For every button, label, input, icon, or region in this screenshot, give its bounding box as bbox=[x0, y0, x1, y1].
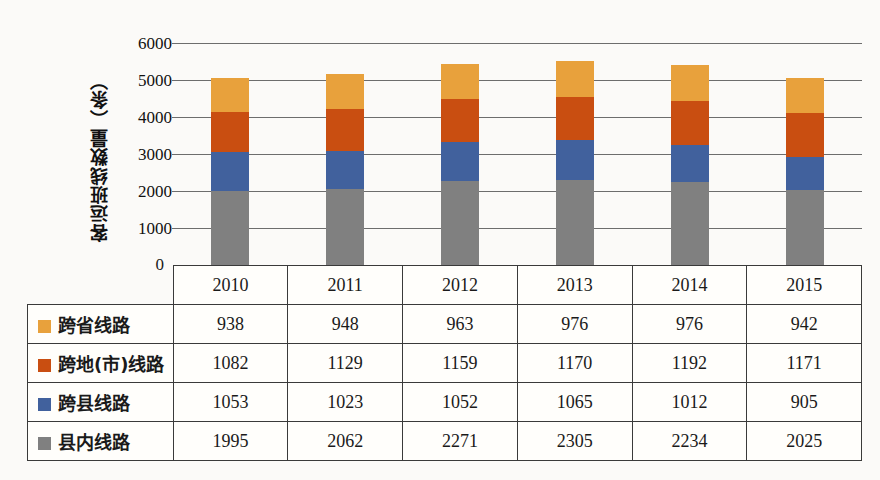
legend-label: 跨省线路 bbox=[58, 315, 130, 336]
legend-item-跨地(市)线路[interactable]: 跨地(市)线路 bbox=[28, 344, 174, 383]
bar-segment bbox=[556, 180, 594, 265]
legend-label: 跨县线路 bbox=[58, 393, 130, 414]
table-cell: 942 bbox=[747, 305, 862, 344]
chart-figure: 客运班线数量（条） 600050004000300020001000 0 201… bbox=[0, 0, 880, 480]
bar-2014 bbox=[671, 65, 709, 265]
legend-item-跨省线路[interactable]: 跨省线路 bbox=[28, 305, 174, 344]
bar-segment bbox=[326, 151, 364, 189]
table-header-row: 201020112012201320142015 bbox=[28, 266, 862, 305]
bar-2011 bbox=[326, 74, 364, 265]
bar-segment bbox=[671, 65, 709, 101]
bar-segment bbox=[786, 157, 824, 190]
table-cell: 905 bbox=[747, 383, 862, 422]
bar-segment bbox=[441, 64, 479, 100]
bar-series-group bbox=[172, 0, 862, 265]
plot-area: 客运班线数量（条） 600050004000300020001000 bbox=[0, 0, 880, 268]
bar-segment bbox=[786, 113, 824, 156]
table-cell: 1129 bbox=[288, 344, 403, 383]
table-cell: 2025 bbox=[747, 422, 862, 461]
table-cell: 948 bbox=[288, 305, 403, 344]
table-col-header-2010: 2010 bbox=[173, 266, 288, 305]
legend-swatch-icon bbox=[38, 437, 51, 450]
bar-2013 bbox=[556, 61, 594, 265]
table-cell: 1012 bbox=[632, 383, 747, 422]
bar-2010 bbox=[211, 78, 249, 266]
table-cell: 1052 bbox=[403, 383, 518, 422]
table-cell: 1995 bbox=[173, 422, 288, 461]
table-cell: 1192 bbox=[632, 344, 747, 383]
bar-segment bbox=[671, 145, 709, 182]
y-tick-label-4000: 4000 bbox=[112, 109, 172, 126]
bar-segment bbox=[211, 112, 249, 152]
bar-segment bbox=[786, 190, 824, 265]
bar-2015 bbox=[786, 78, 824, 265]
table-cell: 2305 bbox=[517, 422, 632, 461]
bar-2012 bbox=[441, 64, 479, 265]
y-tick-label-6000: 6000 bbox=[112, 35, 172, 52]
table-cell: 1159 bbox=[403, 344, 518, 383]
table-cell: 1171 bbox=[747, 344, 862, 383]
bar-segment bbox=[326, 109, 364, 151]
table-col-header-2013: 2013 bbox=[517, 266, 632, 305]
bar-segment bbox=[441, 181, 479, 265]
bar-segment bbox=[326, 74, 364, 109]
bar-segment bbox=[671, 182, 709, 265]
table-cell: 1170 bbox=[517, 344, 632, 383]
table-cell: 1082 bbox=[173, 344, 288, 383]
table-cell: 1053 bbox=[173, 383, 288, 422]
y-axis-tick-labels: 600050004000300020001000 bbox=[112, 0, 172, 268]
table-col-header-2015: 2015 bbox=[747, 266, 862, 305]
table-cell: 1065 bbox=[517, 383, 632, 422]
table-row: 县内线路199520622271230522342025 bbox=[28, 422, 862, 461]
table-row: 跨县线路10531023105210651012905 bbox=[28, 383, 862, 422]
bar-segment bbox=[556, 140, 594, 179]
legend-swatch-icon bbox=[38, 398, 51, 411]
table-cell: 2271 bbox=[403, 422, 518, 461]
table-corner-cell bbox=[28, 266, 174, 305]
legend-label: 县内线路 bbox=[58, 432, 130, 453]
legend-item-县内线路[interactable]: 县内线路 bbox=[28, 422, 174, 461]
bar-segment bbox=[556, 61, 594, 97]
y-tick-label-1000: 1000 bbox=[112, 220, 172, 237]
y-tick-label-5000: 5000 bbox=[112, 72, 172, 89]
bar-segment bbox=[211, 191, 249, 265]
legend-item-跨县线路[interactable]: 跨县线路 bbox=[28, 383, 174, 422]
legend-swatch-icon bbox=[38, 359, 51, 372]
table-cell: 2062 bbox=[288, 422, 403, 461]
table-cell: 963 bbox=[403, 305, 518, 344]
table-cell: 976 bbox=[517, 305, 632, 344]
bar-segment bbox=[786, 78, 824, 113]
bar-segment bbox=[211, 152, 249, 191]
bar-segment bbox=[326, 189, 364, 265]
table-col-header-2012: 2012 bbox=[403, 266, 518, 305]
table-cell: 2234 bbox=[632, 422, 747, 461]
table-col-header-2014: 2014 bbox=[632, 266, 747, 305]
table-cell: 938 bbox=[173, 305, 288, 344]
bar-segment bbox=[671, 101, 709, 145]
bar-segment bbox=[556, 97, 594, 140]
bar-segment bbox=[441, 142, 479, 181]
table-col-header-2011: 2011 bbox=[288, 266, 403, 305]
table-cell: 1023 bbox=[288, 383, 403, 422]
legend-swatch-icon bbox=[38, 320, 51, 333]
table-row: 跨地(市)线路108211291159117011921171 bbox=[28, 344, 862, 383]
data-table: 201020112012201320142015跨省线路938948963976… bbox=[27, 265, 862, 461]
y-tick-label-2000: 2000 bbox=[112, 183, 172, 200]
legend-label: 跨地(市)线路 bbox=[58, 354, 164, 375]
table-cell: 976 bbox=[632, 305, 747, 344]
table-row: 跨省线路938948963976976942 bbox=[28, 305, 862, 344]
bar-segment bbox=[441, 99, 479, 142]
y-tick-label-3000: 3000 bbox=[112, 146, 172, 163]
bar-segment bbox=[211, 78, 249, 113]
